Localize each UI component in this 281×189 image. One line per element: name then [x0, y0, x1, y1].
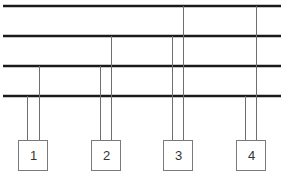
- node-label-3: 3: [164, 141, 193, 171]
- node-label-2: 2: [92, 141, 121, 171]
- node-label-1: 1: [19, 141, 48, 171]
- node-boxes: [19, 141, 266, 171]
- node-label-4: 4: [237, 141, 266, 171]
- wires: [28, 6, 257, 140]
- buses: [3, 6, 281, 96]
